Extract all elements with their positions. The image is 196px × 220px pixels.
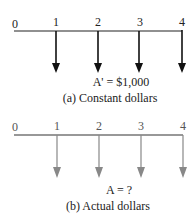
period-label-a-4: 4 [179, 16, 185, 28]
arrow-a-4 [178, 30, 186, 73]
arrow-a-3 [135, 31, 143, 73]
period-label-b-3: 3 [138, 120, 144, 132]
period-label-b-4: 4 [180, 120, 186, 132]
period-label-a-0: 0 [12, 18, 18, 30]
arrow-b-1 [53, 135, 61, 178]
arrow-b-4 [179, 135, 187, 178]
period-label-b-1: 1 [54, 120, 60, 132]
timeline-a [14, 30, 186, 73]
equation-b: A = ? [106, 184, 132, 196]
period-label-a-2: 2 [95, 16, 101, 28]
arrow-b-2 [95, 135, 103, 178]
timeline-b [14, 135, 187, 178]
equation-a: A' = $1,000 [93, 76, 150, 88]
arrow-b-3 [137, 135, 145, 178]
caption-a: (a) Constant dollars [63, 92, 158, 104]
cash-flow-diagrams [0, 0, 196, 220]
period-label-a-3: 3 [137, 16, 143, 28]
arrow-a-2 [94, 31, 102, 73]
arrow-a-1 [52, 31, 60, 73]
period-label-b-2: 2 [96, 120, 102, 132]
period-label-a-1: 1 [53, 16, 59, 28]
caption-b: (b) Actual dollars [66, 200, 150, 212]
period-label-b-0: 0 [12, 121, 18, 133]
